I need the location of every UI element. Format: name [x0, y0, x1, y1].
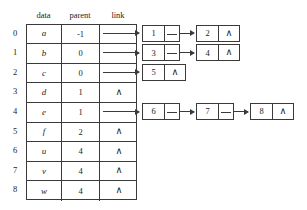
list-node-4: 4 ∧ [196, 44, 240, 61]
cell-link-7: ∧ [100, 162, 138, 181]
list-node-8-pointer: ∧ [273, 104, 293, 119]
cell-link-3: ∧ [100, 83, 138, 102]
table-row: a -1 [27, 25, 136, 45]
list-node-7-pointer [219, 104, 233, 119]
list-node-1-value: 1 [143, 26, 165, 41]
list-node-2: 2 ∧ [196, 25, 240, 42]
table-row: w 4 ∧ [27, 181, 136, 201]
cell-link-6: ∧ [100, 142, 138, 161]
cell-parent-5: 2 [62, 123, 100, 142]
table-row: d 1 ∧ [27, 83, 136, 103]
list-node-6-value: 6 [143, 104, 165, 119]
row-index-0: 0 [8, 24, 22, 44]
list-node-7: 7 [196, 103, 234, 120]
null-pointer-icon: ∧ [280, 107, 287, 117]
cell-data-7: v [27, 162, 62, 181]
list-node-1-pointer [165, 26, 179, 41]
row-index-2: 2 [8, 63, 22, 83]
null-pointer-icon: ∧ [116, 186, 123, 196]
cell-data-3: d [27, 83, 62, 102]
arrow-row4-to-node6 [103, 111, 139, 112]
cell-link-0 [100, 25, 138, 44]
null-pointer-icon: ∧ [226, 29, 233, 39]
arrow-row0-to-node1 [103, 33, 139, 34]
cell-parent-7: 4 [62, 162, 100, 181]
cell-parent-8: 4 [62, 181, 100, 201]
arrow-node1-to-node2 [180, 33, 194, 34]
list-node-4-value: 4 [197, 45, 219, 60]
row-index-6: 6 [8, 141, 22, 161]
list-node-2-value: 2 [197, 26, 219, 41]
cell-parent-3: 1 [62, 83, 100, 102]
table-row: b 0 [27, 44, 136, 64]
list-node-1: 1 [142, 25, 180, 42]
list-node-8: 8 ∧ [250, 103, 294, 120]
cell-data-6: u [27, 142, 62, 161]
cell-link-8: ∧ [100, 181, 138, 201]
arrow-node3-to-node4 [180, 52, 194, 53]
table-row: u 4 ∧ [27, 142, 136, 162]
table-row: e 1 [27, 103, 136, 123]
cell-parent-0: -1 [62, 25, 100, 44]
cell-parent-6: 4 [62, 142, 100, 161]
cell-parent-1: 0 [62, 44, 100, 63]
arrow-row2-to-node5 [103, 72, 139, 73]
list-node-3-value: 3 [143, 45, 165, 60]
row-index-1: 1 [8, 43, 22, 63]
list-node-5-pointer: ∧ [165, 65, 185, 80]
figure-canvas: data parent link 0 1 2 3 4 5 6 7 8 a -1 … [0, 0, 307, 210]
list-node-6: 6 [142, 103, 180, 120]
arrow-row1-to-node3 [103, 52, 139, 53]
null-pointer-icon: ∧ [226, 48, 233, 58]
cell-data-5: f [27, 123, 62, 142]
row-index-4: 4 [8, 102, 22, 122]
cell-data-1: b [27, 44, 62, 63]
null-pointer-icon: ∧ [116, 147, 123, 157]
cell-link-2 [100, 64, 138, 83]
list-node-2-pointer: ∧ [219, 26, 239, 41]
null-pointer-icon: ∧ [116, 166, 123, 176]
arrow-node6-to-node7 [180, 111, 194, 112]
cell-link-5: ∧ [100, 123, 138, 142]
cell-link-4 [100, 103, 138, 122]
list-node-5-value: 5 [143, 65, 165, 80]
list-node-5: 5 ∧ [142, 64, 186, 81]
list-node-3: 3 [142, 44, 180, 61]
row-index-7: 7 [8, 161, 22, 181]
row-index-8: 8 [8, 180, 22, 200]
list-node-8-value: 8 [251, 104, 273, 119]
null-pointer-icon: ∧ [116, 127, 123, 137]
cell-data-2: c [27, 64, 62, 83]
cell-data-8: w [27, 181, 62, 201]
cell-parent-4: 1 [62, 103, 100, 122]
cell-parent-2: 0 [62, 64, 100, 83]
table-row: v 4 ∧ [27, 162, 136, 182]
cell-data-0: a [27, 25, 62, 44]
list-node-7-value: 7 [197, 104, 219, 119]
list-node-3-pointer [165, 45, 179, 60]
list-node-6-pointer [165, 104, 179, 119]
table-row: c 0 [27, 64, 136, 84]
arrow-node7-to-node8 [234, 111, 248, 112]
column-header-data: data [26, 11, 61, 20]
row-index-5: 5 [8, 122, 22, 142]
row-index-3: 3 [8, 82, 22, 102]
cell-link-1 [100, 44, 138, 63]
column-header-parent: parent [61, 11, 99, 20]
table-row: f 2 ∧ [27, 123, 136, 143]
null-pointer-icon: ∧ [172, 68, 179, 78]
null-pointer-icon: ∧ [116, 88, 123, 98]
cell-data-4: e [27, 103, 62, 122]
column-header-link: link [99, 11, 137, 20]
list-node-4-pointer: ∧ [219, 45, 239, 60]
